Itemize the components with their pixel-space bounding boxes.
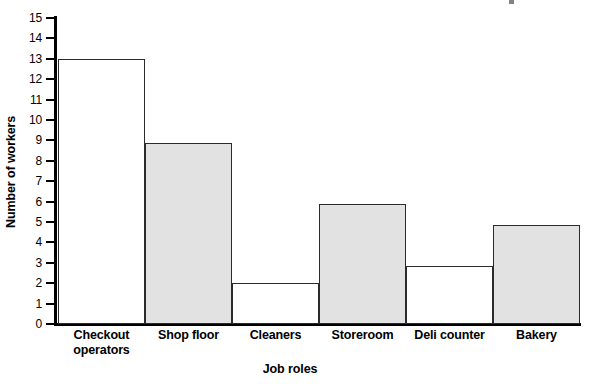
- y-tick-label-2: 2: [16, 277, 42, 289]
- y-tick-label-5: 5: [16, 216, 42, 228]
- y-tick-label-6: 6: [16, 196, 42, 208]
- y-tick-13: [46, 58, 55, 60]
- x-label-bakery: Bakery: [493, 328, 580, 343]
- y-tick-7: [46, 180, 55, 182]
- bar-series: [58, 18, 580, 324]
- y-tick-label-10: 10: [16, 114, 42, 126]
- bar-checkout-operators: [58, 59, 145, 324]
- bar-storeroom: [319, 204, 406, 324]
- bar-cleaners: [232, 283, 319, 324]
- y-tick-15: [46, 17, 55, 19]
- y-tick-label-7: 7: [16, 175, 42, 187]
- y-tick-3: [46, 262, 55, 264]
- x-axis-title: Job roles: [0, 362, 580, 376]
- y-tick-4: [46, 241, 55, 243]
- y-tick-12: [46, 78, 55, 80]
- y-tick-label-0: 0: [16, 318, 42, 330]
- x-label-cleaners: Cleaners: [232, 328, 319, 343]
- y-tick-label-3: 3: [16, 257, 42, 269]
- scan-artifact: [509, 0, 514, 4]
- y-tick-10: [46, 119, 55, 121]
- y-tick-label-8: 8: [16, 155, 42, 167]
- y-tick-6: [46, 201, 55, 203]
- y-tick-2: [46, 282, 55, 284]
- y-tick-label-1: 1: [16, 298, 42, 310]
- y-tick-label-4: 4: [16, 236, 42, 248]
- y-tick-label-14: 14: [16, 32, 42, 44]
- y-tick-label-12: 12: [16, 73, 42, 85]
- y-tick-label-15: 15: [16, 12, 42, 24]
- y-tick-11: [46, 99, 55, 101]
- bar-bakery: [493, 225, 580, 324]
- y-tick-label-11: 11: [16, 94, 42, 106]
- y-tick-label-13: 13: [16, 53, 42, 65]
- y-tick-5: [46, 221, 55, 223]
- y-tick-8: [46, 160, 55, 162]
- bar-deli-counter: [406, 266, 493, 324]
- x-label-deli-counter: Deli counter: [406, 328, 493, 343]
- y-tick-9: [46, 139, 55, 141]
- y-tick-0: [46, 323, 55, 325]
- y-tick-1: [46, 303, 55, 305]
- x-label-storeroom: Storeroom: [319, 328, 406, 343]
- bar-chart: Number of workers 1514131211109876543210…: [0, 0, 595, 384]
- bar-shop-floor: [145, 143, 232, 324]
- y-axis-line: [54, 16, 57, 326]
- x-label-shop-floor: Shop floor: [145, 328, 232, 343]
- y-tick-14: [46, 37, 55, 39]
- x-label-checkout-operators: Checkout operators: [58, 328, 145, 358]
- y-tick-label-9: 9: [16, 134, 42, 146]
